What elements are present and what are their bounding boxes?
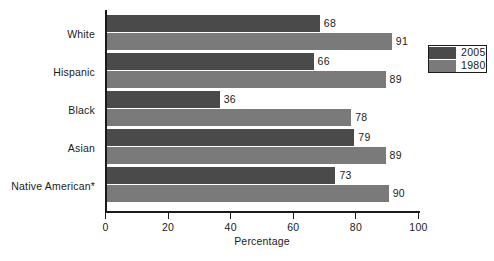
bar-value-asian-1980: 89: [390, 147, 402, 164]
x-axis-tick-20: [168, 213, 169, 219]
category-label-native-american: Native American*: [11, 180, 95, 192]
x-axis-tick-label-60: 60: [287, 221, 299, 233]
legend-swatch-1980-icon: [429, 60, 456, 72]
bar-value-black-2005: 36: [224, 91, 236, 108]
bar-value-native-american-2005: 73: [339, 167, 351, 184]
bar-asian-2005: [107, 129, 354, 146]
x-axis-tick-60: [293, 213, 294, 219]
legend-item-2005: 2005: [429, 46, 486, 59]
x-axis-tick-40: [230, 213, 231, 219]
x-axis-tick-label-100: 100: [409, 221, 427, 233]
x-axis-tick-80: [355, 213, 356, 219]
x-axis-title: Percentage: [234, 235, 290, 247]
legend: 2005 1980: [428, 45, 487, 73]
category-label-white: White: [67, 28, 95, 40]
bar-white-2005: [107, 15, 320, 32]
x-axis-tick-100: [418, 213, 419, 219]
x-axis-tick-label-40: 40: [225, 221, 237, 233]
bar-hispanic-2005: [107, 53, 314, 70]
category-label-hispanic: Hispanic: [53, 66, 95, 78]
bar-value-white-2005: 68: [324, 15, 336, 32]
x-axis-tick-label-80: 80: [350, 221, 362, 233]
bars-layer: 68 91 66 89 36 78 79 89 73: [107, 11, 420, 202]
bar-native-american-2005: [107, 167, 335, 184]
bar-value-native-american-1980: 90: [393, 185, 405, 202]
bar-hispanic-1980: [107, 71, 386, 88]
bar-asian-1980: [107, 147, 386, 164]
category-label-black: Black: [68, 104, 95, 116]
x-axis-tick-label-20: 20: [162, 221, 174, 233]
category-label-asian: Asian: [68, 142, 95, 154]
bar-chart: White Hispanic Black Asian Native Americ…: [0, 0, 494, 261]
bar-native-american-1980: [107, 185, 389, 202]
legend-label-2005: 2005: [456, 46, 486, 59]
bar-value-white-1980: 91: [396, 33, 408, 50]
bar-value-asian-2005: 79: [358, 129, 370, 146]
bar-black-2005: [107, 91, 220, 108]
bar-value-hispanic-1980: 89: [390, 71, 402, 88]
bar-black-1980: [107, 109, 351, 126]
bar-value-black-1980: 78: [355, 109, 367, 126]
x-axis-tick-0: [105, 213, 106, 219]
bar-value-hispanic-2005: 66: [318, 53, 330, 70]
bar-white-1980: [107, 33, 392, 50]
x-axis-tick-label-0: 0: [102, 221, 108, 233]
legend-item-1980: 1980: [429, 59, 486, 72]
legend-label-1980: 1980: [456, 59, 486, 72]
legend-swatch-2005-icon: [429, 47, 456, 59]
